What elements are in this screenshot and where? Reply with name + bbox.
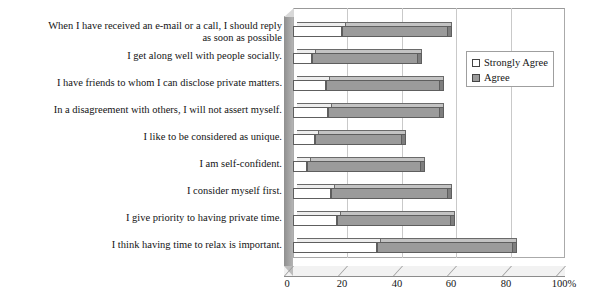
category-label: I think having time to relax is importan… [2, 239, 282, 251]
bar-segment-agree [342, 26, 448, 37]
bar-segment-agree [326, 80, 440, 91]
bar-end-cap [440, 107, 444, 118]
bar-segment-strongly-agree [293, 80, 326, 91]
bar-segment-agree [312, 53, 418, 64]
bar-segment-agree [337, 215, 451, 226]
gray-square-icon [472, 74, 480, 82]
category-label: I like to be considered as unique. [2, 131, 282, 143]
category-label: I consider myself first. [2, 185, 282, 197]
bar-segment-strongly-agree [293, 242, 377, 253]
bar-segment-strongly-agree [293, 188, 331, 199]
bar-segment-agree [307, 161, 421, 172]
legend-item-strongly-agree: Strongly Agree [472, 55, 553, 70]
legend-item-agree: Agree [472, 70, 553, 85]
bar-end-cap [513, 242, 517, 253]
bar-segment-agree [315, 134, 402, 145]
category-label: I have friends to whom I can disclose pr… [2, 77, 282, 89]
legend-label: Agree [484, 72, 510, 83]
bar-end-cap [451, 215, 455, 226]
axis-depth-wall [284, 16, 293, 266]
bar-segment-strongly-agree [293, 26, 342, 37]
bar-segment-agree [328, 107, 440, 118]
axis-tick-label: 100% [552, 278, 577, 289]
category-label: When I have received an e-mail or a call… [2, 20, 282, 45]
bar-row [293, 238, 565, 253]
axis-tick-label: 40 [392, 278, 403, 289]
bar-row [293, 211, 565, 226]
bar-segment-agree [331, 188, 448, 199]
axis-tick-label: 80 [501, 278, 512, 289]
chart-legend: Strongly Agree Agree [466, 51, 554, 87]
axis-tick-label: 20 [337, 278, 348, 289]
category-label: I get along well with people socially. [2, 50, 282, 62]
axis-tick-label: 0 [284, 278, 289, 289]
chart-figure: When I have received an e-mail or a call… [0, 0, 590, 291]
legend-label: Strongly Agree [484, 57, 548, 68]
bar-row [293, 157, 565, 172]
bar-end-cap [421, 161, 425, 172]
bar-end-cap [448, 26, 452, 37]
bar-row [293, 22, 565, 37]
bar-row [293, 130, 565, 145]
bar-segment-strongly-agree [293, 161, 307, 172]
bar-segment-strongly-agree [293, 134, 315, 145]
category-label: I am self-confident. [2, 158, 282, 170]
bar-row [293, 103, 565, 118]
axis-floor [284, 266, 565, 277]
bar-end-cap [448, 188, 452, 199]
bar-segment-agree [377, 242, 513, 253]
plot-area: 0 20 40 60 80 100% [293, 8, 565, 258]
bar-segment-strongly-agree [293, 53, 312, 64]
bar-row [293, 184, 565, 199]
bar-segment-strongly-agree [293, 215, 337, 226]
white-square-icon [472, 59, 480, 67]
bar-end-cap [440, 80, 444, 91]
category-label: I give priority to having private time. [2, 212, 282, 224]
bar-segment-strongly-agree [293, 107, 328, 118]
axis-tick-label: 60 [446, 278, 457, 289]
bar-end-cap [418, 53, 422, 64]
category-axis-labels: When I have received an e-mail or a call… [0, 0, 288, 258]
bar-end-cap [402, 134, 406, 145]
category-label: In a disagreement with others, I will no… [2, 104, 282, 116]
